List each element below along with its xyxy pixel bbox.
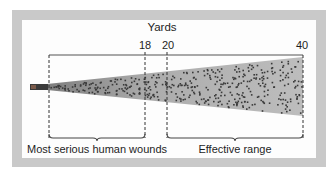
tick-label-18: 18	[139, 40, 151, 51]
tick-label-20: 20	[162, 40, 174, 51]
region-label-effective-range: Effective range	[198, 144, 271, 155]
region-label-serious-wounds: Most serious human wounds	[27, 144, 167, 155]
tick-label-40: 40	[296, 40, 308, 51]
axis-title: Yards	[147, 22, 176, 34]
brace-effective-range	[167, 134, 303, 141]
brace-serious-wounds	[49, 134, 145, 141]
